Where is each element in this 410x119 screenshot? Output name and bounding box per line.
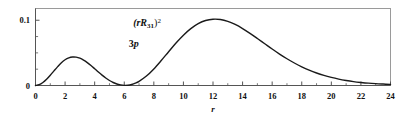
x-tick-label: 22 [357,92,366,101]
y-tick-label: 0 [4,81,30,90]
x-tick-label: 4 [93,92,97,101]
curve-label-rR31-squared: (rR31)2 [133,18,161,30]
figure-container: 024681012141618202224 00.1 r (rR31)2 3p [0,0,410,119]
x-tick-label: 2 [63,92,67,101]
annot-subscript-31: 31 [147,21,154,29]
x-axis [36,82,391,86]
orbital-l-letter: p [134,38,139,49]
x-tick-label: 14 [238,92,247,101]
data-series-group [36,19,391,85]
x-tick-label: 0 [33,92,37,101]
x-tick-label: 16 [268,92,277,101]
x-tick-label: 10 [179,92,188,101]
chart-plot-area [0,0,410,119]
annot-superscript-2: 2 [157,17,161,25]
y-axis [36,9,40,86]
x-tick-label: 24 [386,92,395,101]
data-curve [36,19,391,85]
x-axis-title: r [211,105,215,114]
x-tick-label: 20 [327,92,336,101]
plot-frame [36,9,391,86]
frame-border [36,9,391,86]
x-tick-label: 6 [122,92,126,101]
x-tick-label: 8 [152,92,156,101]
y-tick-label: 0.1 [4,16,30,25]
x-tick-label: 18 [298,92,307,101]
x-tick-label: 12 [209,92,218,101]
orbital-label-3p: 3p [129,39,139,49]
